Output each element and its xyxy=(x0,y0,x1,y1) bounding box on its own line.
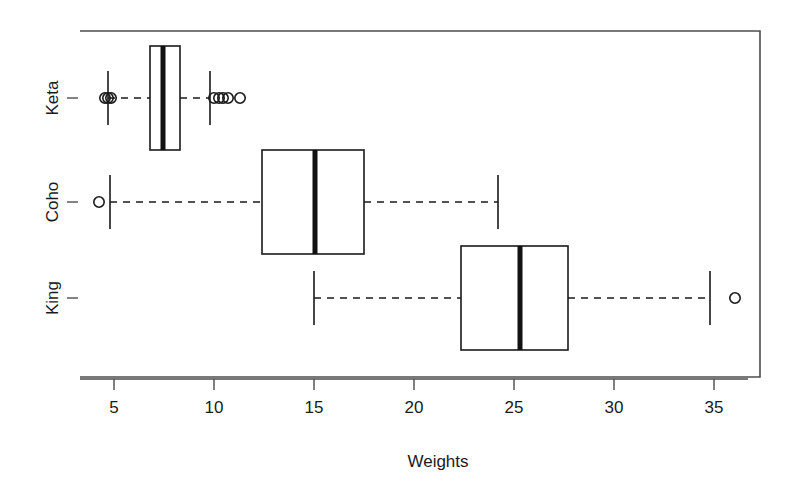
category-label-keta: Keta xyxy=(43,80,62,116)
x-axis-title: Weights xyxy=(407,452,468,471)
x-tick-label: 35 xyxy=(705,398,724,417)
boxplot-figure: 5101520253035 KetaCohoKing Weights xyxy=(0,0,797,496)
category-label-king: King xyxy=(43,281,62,315)
x-tick-label: 5 xyxy=(109,398,118,417)
x-tick-label: 15 xyxy=(305,398,324,417)
category-label-coho: Coho xyxy=(43,182,62,223)
figure-background xyxy=(0,0,797,496)
x-tick-label: 20 xyxy=(405,398,424,417)
boxplot-canvas: 5101520253035 KetaCohoKing Weights xyxy=(0,0,797,496)
x-tick-label: 30 xyxy=(605,398,624,417)
x-tick-label: 25 xyxy=(505,398,524,417)
box-iqr xyxy=(461,246,568,350)
x-tick-label: 10 xyxy=(205,398,224,417)
